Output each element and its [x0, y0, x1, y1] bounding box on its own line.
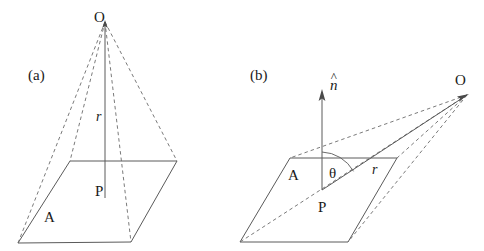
panel-b-area-label: A — [288, 168, 299, 183]
figure-canvas — [0, 0, 484, 251]
panel-b-theta-arc — [322, 152, 354, 171]
apex-to-bottom-right-dashed — [348, 95, 467, 242]
apex-to-top-left-dashed — [290, 95, 467, 158]
normal-hat-accent: ^ — [331, 70, 337, 83]
base-edge-right — [131, 161, 177, 242]
panel-b-caption: (b) — [250, 68, 268, 83]
panel-a-caption: (a) — [28, 68, 45, 83]
figure-root: (a) O r P A (b) ^n O A θ r P — [0, 0, 484, 251]
plane-edge-left — [240, 158, 290, 242]
panel-b-graphics — [240, 89, 469, 242]
panel-b-apex-label: O — [455, 73, 466, 88]
panel-b-angle-label: θ — [329, 166, 336, 181]
panel-a-foot-label: P — [95, 184, 103, 199]
panel-a-area-label: A — [44, 210, 55, 225]
base-edge-left — [18, 161, 70, 243]
apex-to-back-left-dashed — [70, 22, 105, 161]
panel-b-radius-line — [322, 95, 467, 190]
apex-to-top-right-dashed — [397, 95, 467, 158]
panel-a-base-quad — [18, 161, 177, 243]
apex-to-front-left-dashed — [18, 22, 105, 243]
panel-b-distance-label: r — [372, 163, 377, 177]
panel-a-lateral-edges — [18, 22, 177, 243]
base-edge-front — [18, 242, 131, 243]
panel-b-normal-label: ^n — [330, 78, 338, 93]
panel-a-graphics — [18, 20, 177, 243]
apex-to-front-right-dashed — [105, 22, 131, 242]
panel-b-foot-label: P — [318, 200, 326, 215]
apex-to-back-right-dashed — [105, 22, 177, 161]
panel-a-apex-label: O — [94, 10, 105, 25]
panel-a-distance-label: r — [96, 110, 101, 124]
